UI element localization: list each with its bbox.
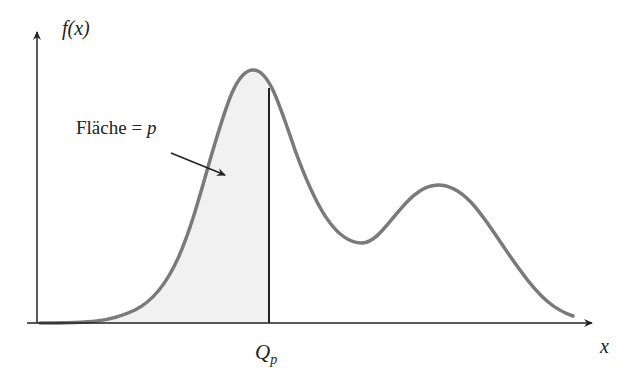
- x-axis-label: x: [600, 335, 609, 358]
- y-axis-label: f(x): [62, 17, 90, 40]
- area-label-eq: =: [131, 117, 142, 138]
- quantile-label: Qp: [255, 340, 277, 368]
- area-label-var: p: [147, 117, 157, 138]
- area-label-text: Fläche: [76, 117, 127, 138]
- shaded-area: [40, 70, 269, 323]
- quantile-label-subscript: p: [270, 352, 277, 367]
- density-curve: [40, 70, 573, 323]
- quantile-label-main: Q: [255, 340, 270, 364]
- density-plot: [0, 0, 635, 377]
- area-label: Fläche = p: [76, 117, 156, 139]
